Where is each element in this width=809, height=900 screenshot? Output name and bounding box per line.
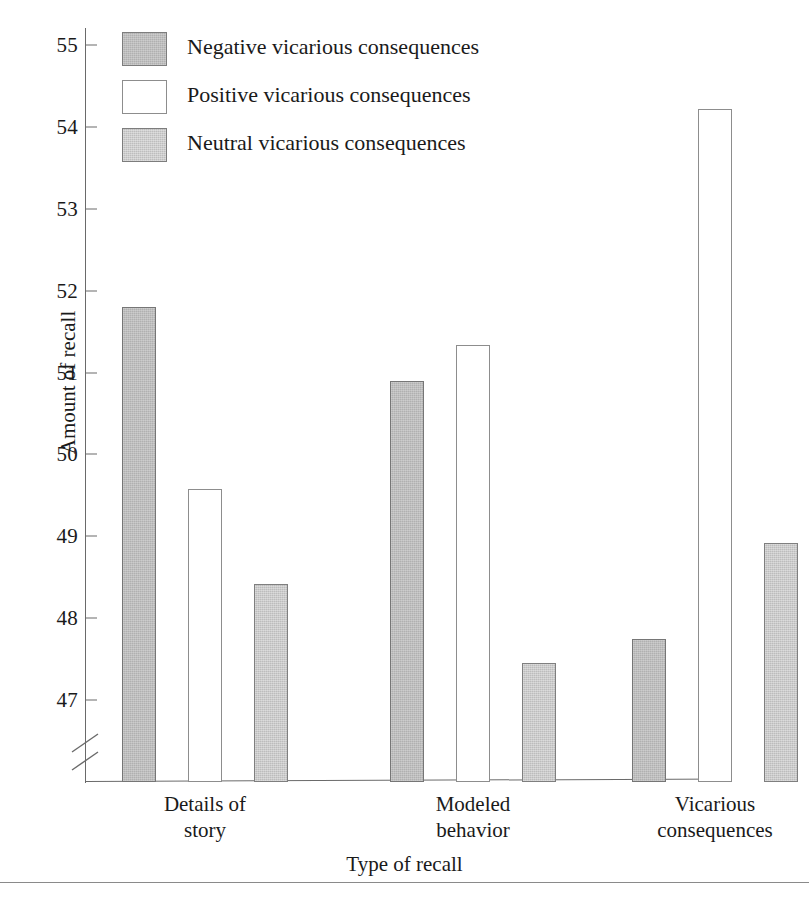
negative-swatch-icon (122, 32, 167, 66)
x-axis-category-label: Modeled behavior (353, 792, 593, 843)
bar (390, 381, 424, 782)
x-axis-category-label: Vicarious consequences (595, 792, 809, 843)
legend-item-label: Neutral vicarious consequences (187, 132, 466, 154)
legend-item-label: Positive vicarious consequences (187, 84, 471, 106)
bar (764, 543, 798, 782)
legend-item: Neutral vicarious consequences (122, 127, 552, 175)
x-axis-title: Type of recall (0, 852, 809, 877)
bar (456, 345, 490, 782)
neutral-swatch-icon (122, 128, 167, 162)
figure-chart: 474849505152535455 Details of storyModel… (0, 0, 809, 900)
bar (522, 663, 556, 782)
legend-item: Positive vicarious consequences (122, 79, 552, 127)
legend: Negative vicarious consequences Positive… (122, 31, 552, 175)
y-axis-title: Amount of recall (56, 263, 81, 503)
x-axis-category-label: Details of story (85, 792, 325, 843)
legend-item-label: Negative vicarious consequences (187, 36, 479, 58)
bar (698, 109, 732, 782)
bottom-divider (0, 882, 809, 883)
bar (254, 584, 288, 782)
bar (632, 639, 666, 782)
positive-swatch-icon (122, 80, 167, 114)
legend-item: Negative vicarious consequences (122, 31, 552, 79)
bar (122, 307, 156, 782)
bar (188, 489, 222, 782)
